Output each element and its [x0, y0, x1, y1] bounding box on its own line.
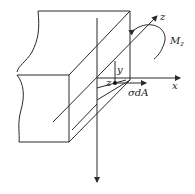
section-edge	[97, 80, 126, 88]
top-face	[17, 11, 130, 75]
front-face	[19, 75, 69, 142]
moment-label: Mz	[169, 35, 184, 48]
break-line-upper	[17, 11, 39, 72]
diagram-canvas: z x y z σdA Mz	[0, 0, 195, 194]
right-face	[69, 11, 130, 142]
stress-label: σdA	[128, 87, 148, 98]
x-axis-label: x	[172, 80, 178, 91]
beam-block	[17, 11, 130, 142]
z-axis-label: z	[159, 11, 166, 22]
y-label: y	[116, 64, 123, 75]
area-element-dot	[113, 81, 117, 85]
break-line-lower	[17, 75, 23, 142]
moment-arc	[134, 25, 165, 59]
beam-bending-diagram: z x y z σdA Mz	[0, 0, 195, 194]
z-coord-label: z	[105, 77, 112, 88]
